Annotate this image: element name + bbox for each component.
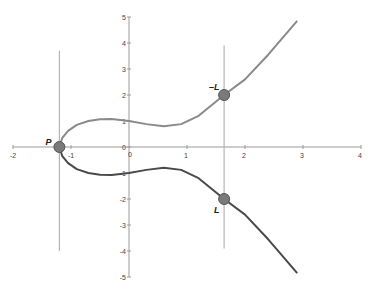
y-tick-label: 3: [122, 66, 126, 73]
y-tick-label: -3: [120, 222, 126, 229]
point-label: –L: [209, 82, 220, 92]
y-tick-label: 4: [122, 40, 126, 47]
y-tick-label: 0: [122, 144, 126, 151]
upper-curve: [59, 21, 297, 147]
x-tick-label: -2: [10, 152, 16, 159]
y-tick-label: -2: [120, 196, 126, 203]
y-tick-label: 5: [122, 14, 126, 21]
point-label: P: [45, 137, 52, 147]
x-tick-label: 0: [128, 151, 132, 158]
point-l: [219, 194, 230, 205]
plot-area: -2-101234543210-1-2-3-4-5P–LL: [0, 0, 374, 292]
x-tick-label: 2: [242, 152, 246, 159]
y-tick-label: -4: [120, 248, 126, 255]
x-tick-label: 3: [300, 152, 304, 159]
point-p: [54, 142, 65, 153]
x-tick-label: 1: [184, 152, 188, 159]
y-tick-label: -5: [120, 274, 126, 281]
lower-curve: [59, 147, 297, 273]
y-tick-label: 2: [122, 92, 126, 99]
point-neg-l: [219, 90, 230, 101]
x-tick-label: -1: [68, 152, 74, 159]
elliptic-curve-chart: -2-101234543210-1-2-3-4-5P–LL: [0, 0, 374, 292]
point-label: L: [214, 205, 220, 215]
x-tick-label: 4: [358, 152, 362, 159]
